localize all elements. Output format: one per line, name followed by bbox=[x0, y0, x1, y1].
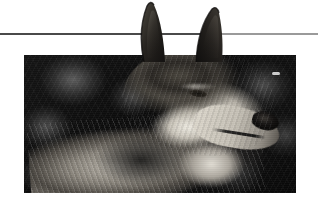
wolf-photograph bbox=[24, 55, 296, 193]
background-highlight-speck bbox=[272, 72, 280, 75]
photo-content bbox=[24, 55, 296, 193]
horizontal-rule-right-segment bbox=[222, 33, 318, 35]
wolf-left-ear bbox=[130, 0, 172, 62]
wolf-right-ear bbox=[192, 6, 230, 62]
page-root bbox=[0, 0, 318, 208]
horizontal-rule-left-segment bbox=[0, 33, 222, 35]
